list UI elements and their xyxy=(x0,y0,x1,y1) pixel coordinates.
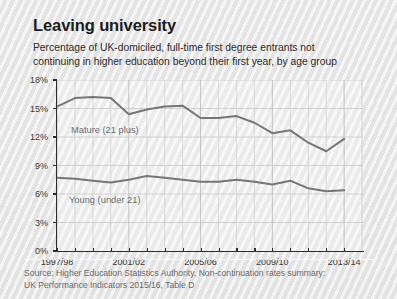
y-tick-label: 12% xyxy=(14,132,48,142)
chart-body: Leaving university Percentage of UK-domi… xyxy=(0,8,397,299)
plot-area xyxy=(57,80,363,251)
x-tick-mark xyxy=(165,248,166,252)
y-tick-label: 15% xyxy=(14,104,48,114)
x-tick-mark xyxy=(57,248,58,252)
y-tick-label: 9% xyxy=(14,161,48,171)
x-tick-mark xyxy=(326,248,327,252)
y-tick-mark xyxy=(53,79,57,80)
source-line-1: Source: Higher Education Statistics Auth… xyxy=(24,268,374,280)
series-lines xyxy=(57,80,363,251)
y-tick-mark xyxy=(53,165,57,166)
x-tick-mark xyxy=(236,248,237,252)
y-tick-mark xyxy=(53,222,57,223)
source-line-2: UK Performance Indicators 2015/16, Table… xyxy=(24,280,374,292)
y-tick-label: 18% xyxy=(14,75,48,85)
chart-subtitle: Percentage of UK-domiciled, full-time fi… xyxy=(33,41,363,69)
x-tick-mark xyxy=(272,248,273,252)
x-tick-mark xyxy=(93,248,94,252)
footer: Source: Higher Education Statistics Auth… xyxy=(0,259,397,299)
y-tick-mark xyxy=(53,108,57,109)
x-axis xyxy=(56,251,364,252)
x-tick-mark xyxy=(219,248,220,252)
y-tick-mark xyxy=(53,136,57,137)
y-tick-label: 0% xyxy=(14,246,48,256)
y-tick-mark xyxy=(53,193,57,194)
y-tick-label: 6% xyxy=(14,189,48,199)
x-tick-mark xyxy=(129,248,130,252)
x-tick-mark xyxy=(147,248,148,252)
footer-divider xyxy=(24,259,373,260)
x-tick-mark xyxy=(201,248,202,252)
series-line-1 xyxy=(57,176,344,191)
x-tick-mark xyxy=(254,248,255,252)
x-tick-mark xyxy=(111,248,112,252)
series-label-1: Young (under 21) xyxy=(69,195,141,205)
x-tick-mark xyxy=(308,248,309,252)
series-label-0: Mature (21 plus) xyxy=(71,125,139,135)
page-title: Leaving university xyxy=(33,16,176,35)
y-tick-label: 3% xyxy=(14,218,48,228)
chart-card: Leaving university Percentage of UK-domi… xyxy=(0,0,397,299)
x-tick-mark xyxy=(183,248,184,252)
x-tick-mark xyxy=(344,248,345,252)
x-tick-mark xyxy=(75,248,76,252)
x-tick-mark xyxy=(290,248,291,252)
